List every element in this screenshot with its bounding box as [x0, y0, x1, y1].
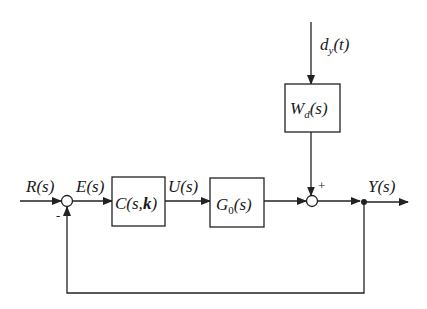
error-label: E(s) [75, 177, 105, 196]
summing-junction-1 [62, 196, 73, 207]
disturbance-filter-label: Wd(s) [290, 99, 328, 120]
control-label: U(s) [168, 177, 199, 196]
plant-label: G0(s) [216, 195, 252, 216]
summing-junction-2 [307, 196, 318, 207]
disturbance-sign: + [318, 178, 325, 193]
block-diagram: R(s) - E(s) C(s,k) U(s) G0(s) + Y(s) dy(… [0, 0, 427, 309]
feedback-sign: - [56, 208, 60, 223]
output-label: Y(s) [368, 177, 396, 196]
controller-label: C(s,k) [115, 194, 157, 213]
disturbance-label: dy(t) [320, 35, 350, 56]
reference-label: R(s) [25, 177, 55, 196]
